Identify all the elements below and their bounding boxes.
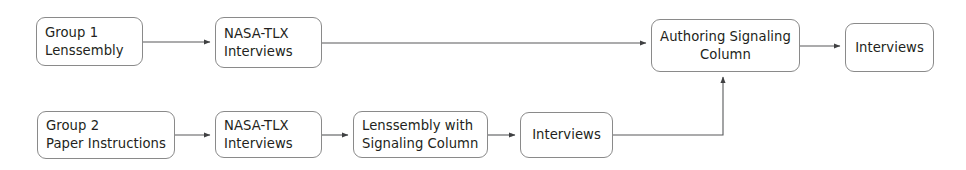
node-interviews_top: Interviews [845, 23, 934, 72]
node-label: Interviews [532, 126, 601, 144]
node-lenssembly_signaling: Lenssembly withSignaling Column [353, 111, 488, 158]
node-label: Signaling Column [362, 135, 478, 153]
node-label: NASA-TLX [224, 25, 289, 43]
node-label: Interviews [855, 39, 924, 57]
node-label: Interviews [224, 43, 293, 61]
node-label: Paper Instructions [46, 135, 166, 153]
node-label: Group 2 [46, 117, 99, 135]
flowchart-diagram: Group 1LenssemblyNASA-TLXInterviewsAutho… [0, 0, 966, 170]
node-authoring_signaling_column: Authoring SignalingColumn [651, 19, 800, 72]
node-label: NASA-TLX [224, 117, 289, 135]
node-interviews_bottom: Interviews [520, 112, 613, 158]
node-label: Group 1 [45, 24, 98, 42]
node-label: Lenssembly with [362, 117, 473, 135]
edge-interviews-bottom-to-authoring [613, 77, 723, 135]
node-nasa_tlx_top: NASA-TLXInterviews [215, 17, 322, 68]
node-label: Column [700, 46, 751, 64]
node-label: Interviews [224, 135, 293, 153]
node-group1: Group 1Lenssembly [36, 17, 143, 66]
node-group2: Group 2Paper Instructions [37, 111, 175, 159]
node-label: Lenssembly [45, 42, 124, 60]
node-label: Authoring Signaling [660, 28, 791, 46]
node-nasa_tlx_bottom: NASA-TLXInterviews [215, 111, 322, 158]
